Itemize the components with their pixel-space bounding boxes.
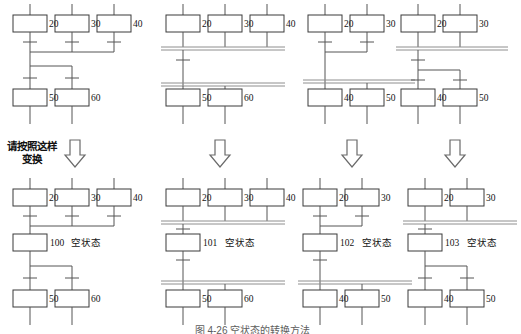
- step-label: 30: [381, 193, 391, 203]
- step-label: 40: [339, 294, 349, 304]
- step-label: 50: [49, 294, 59, 304]
- step-label: 40: [286, 19, 296, 29]
- down-block-arrow-icon: [340, 139, 364, 169]
- step-label: 20: [344, 19, 354, 29]
- panel-bottom-2: 20 30 40 101 空状态 50 60: [163, 178, 298, 330]
- step-label: 60: [91, 294, 101, 304]
- step-label: 50: [202, 294, 212, 304]
- sfc-graphic-bottom-1: [10, 178, 145, 330]
- step-label: 40: [133, 193, 143, 203]
- empty-state-text: 空状态: [225, 237, 255, 248]
- step-label: 40: [133, 19, 143, 29]
- sfc-graphic-bottom-4: [405, 178, 521, 330]
- step-label: 50: [486, 294, 496, 304]
- step-label: 20: [437, 19, 447, 29]
- step-label: 30: [244, 19, 254, 29]
- step-label: 30: [91, 19, 101, 29]
- step-label: 20: [339, 193, 349, 203]
- sfc-graphic-top-2: [163, 4, 298, 129]
- step-label: 40: [437, 93, 447, 103]
- down-block-arrow-icon: [443, 139, 467, 169]
- step-label: 30: [244, 193, 254, 203]
- empty-state-number: 103: [445, 238, 459, 248]
- empty-state-number: 100: [50, 238, 64, 248]
- step-label: 20: [49, 19, 59, 29]
- step-label: 30: [486, 193, 496, 203]
- step-label: 60: [91, 93, 101, 103]
- step-label: 50: [479, 93, 489, 103]
- step-label: 30: [91, 193, 101, 203]
- empty-state-number: 102: [340, 238, 354, 248]
- step-label: 40: [344, 93, 354, 103]
- transform-arrow-2: [208, 139, 232, 173]
- step-label: 50: [202, 93, 212, 103]
- sfc-graphic-top-1: [10, 4, 145, 129]
- step-label: 20: [202, 193, 212, 203]
- step-label: 60: [244, 93, 254, 103]
- panel-bottom-4: 20 30 103 空状态 40 50: [405, 178, 521, 330]
- step-label: 40: [286, 193, 296, 203]
- panel-top-1: 20 30 40 50 60: [10, 4, 145, 129]
- down-block-arrow-icon: [63, 139, 87, 169]
- panel-top-4: 20 30 40 50: [398, 4, 518, 129]
- down-block-arrow-icon: [208, 139, 232, 169]
- step-label: 50: [381, 294, 391, 304]
- step-label: 50: [386, 93, 396, 103]
- step-label: 40: [444, 294, 454, 304]
- empty-state-text: 空状态: [467, 237, 497, 248]
- step-label: 20: [202, 19, 212, 29]
- step-label: 20: [444, 193, 454, 203]
- step-label: 20: [49, 193, 59, 203]
- step-label: 30: [479, 19, 489, 29]
- panel-top-2: 20 30 40 50 60: [163, 4, 298, 129]
- transform-arrow-3: [340, 139, 364, 173]
- step-label: 60: [244, 294, 254, 304]
- empty-state-text: 空状态: [71, 237, 101, 248]
- step-label: 30: [386, 19, 396, 29]
- instruction-line-2: 变换: [1, 153, 63, 166]
- sfc-graphic-bottom-2: [163, 178, 298, 330]
- transform-arrow-1: [63, 139, 87, 173]
- empty-state-number: 101: [203, 238, 217, 248]
- sfc-graphic-top-4: [398, 4, 518, 129]
- transform-instruction: 请按照这样 变换: [1, 140, 63, 165]
- figure-caption: 图 4-26 空状态的转换方法: [0, 325, 505, 334]
- instruction-line-1: 请按照这样: [1, 140, 63, 153]
- empty-state-text: 空状态: [362, 237, 392, 248]
- panel-bottom-1: 20 30 40 100 空状态 50 60: [10, 178, 145, 330]
- transform-arrow-4: [443, 139, 467, 173]
- step-label: 50: [49, 93, 59, 103]
